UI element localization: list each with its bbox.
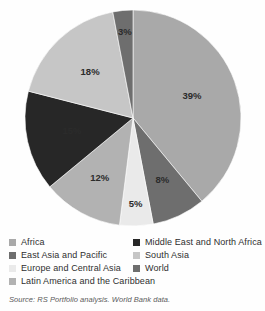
pie-slice-label: 8% (155, 174, 169, 185)
legend-item-label: World (145, 262, 169, 275)
legend-item-label: Latin America and the Caribbean (21, 275, 155, 288)
pie-slice-label: 12% (90, 172, 110, 183)
legend-item[interactable]: South Asia (133, 249, 265, 262)
legend-swatch-icon (9, 278, 16, 285)
legend-item[interactable]: East Asia and Pacific (9, 249, 129, 262)
pie-slice-label: 15% (62, 125, 82, 136)
legend-item-label: South Asia (145, 249, 189, 262)
chart-legend: AfricaEast Asia and PacificEurope and Ce… (9, 236, 265, 288)
chart-plot-area: 39%8%5%12%15%18%3% (0, 6, 265, 230)
legend-item-label: Middle East and North Africa (145, 236, 262, 249)
legend-item[interactable]: Middle East and North Africa (133, 236, 265, 249)
legend-item-label: Europe and Central Asia (21, 262, 121, 275)
pie-chart-svg: 39%8%5%12%15%18%3% (13, 6, 253, 230)
legend-item[interactable]: Africa (9, 236, 129, 249)
legend-swatch-icon (133, 252, 140, 259)
legend-item[interactable]: Europe and Central Asia (9, 262, 129, 275)
legend-swatch-icon (9, 239, 16, 246)
legend-item[interactable]: World (133, 262, 265, 275)
legend-swatch-icon (133, 265, 140, 272)
legend-column-right: Middle East and North AfricaSouth AsiaWo… (133, 236, 265, 275)
pie-chart-figure: 39%8%5%12%15%18%3% AfricaEast Asia and P… (0, 0, 265, 311)
legend-swatch-icon (133, 239, 140, 246)
legend-swatch-icon (9, 265, 16, 272)
legend-item-label: East Asia and Pacific (21, 249, 107, 262)
pie-slice-label: 18% (80, 66, 100, 77)
cropped-title-remnant (0, 0, 265, 5)
legend-item[interactable]: Latin America and the Caribbean (9, 275, 129, 288)
pie-slice-label: 5% (128, 198, 142, 209)
legend-item-label: Africa (21, 236, 45, 249)
pie-slice-label: 3% (118, 26, 132, 37)
legend-swatch-icon (9, 252, 16, 259)
pie-slice-label: 39% (182, 90, 202, 101)
legend-column-left: AfricaEast Asia and PacificEurope and Ce… (9, 236, 129, 288)
source-note: Source: RS Portfolio analysis. World Ban… (9, 295, 170, 304)
